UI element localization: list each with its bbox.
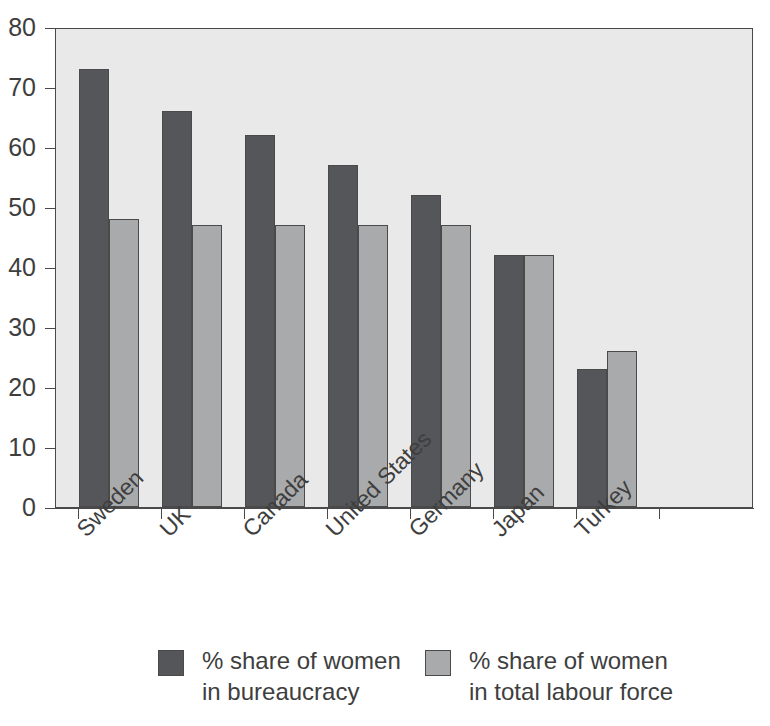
legend-swatch [425,650,451,676]
bar [162,111,192,507]
y-axis-tick-label: 30 [8,315,36,340]
plot-area [55,28,753,508]
y-axis-line [55,28,56,509]
legend-label: % share of womenin total labour force [469,645,673,707]
y-axis-tick [45,508,55,509]
bar-chart: 01020304050607080 SwedenUKCanadaUnited S… [0,0,770,726]
y-axis-tick [45,148,55,149]
y-axis-tick [45,328,55,329]
bar [79,69,109,507]
y-axis-tick [45,268,55,269]
y-axis-tick [45,208,55,209]
y-axis-tick-label: 0 [22,495,36,520]
bar [245,135,275,507]
y-axis-tick-label: 60 [8,135,36,160]
y-axis-tick [45,388,55,389]
legend-item: % share of womenin bureaucracy [158,645,401,707]
legend-label-line: in bureaucracy [202,676,401,707]
bar [275,225,305,507]
chart-legend: % share of womenin bureaucracy% share of… [0,645,770,726]
bar [109,219,139,507]
bar [494,255,524,507]
y-axis-tick [45,88,55,89]
legend-label-line: in total labour force [469,676,673,707]
bar [328,165,358,507]
legend-label-line: % share of women [202,645,401,676]
bar [524,255,554,507]
legend-label-line: % share of women [469,645,673,676]
y-axis-tick [45,28,55,29]
bars-layer [56,29,752,507]
y-axis-tick-label: 70 [8,75,36,100]
y-axis-tick [45,448,55,449]
legend-item: % share of womenin total labour force [425,645,673,707]
y-axis-tick-label: 40 [8,255,36,280]
y-axis-tick-label: 50 [8,195,36,220]
bar [192,225,222,507]
x-axis-line [55,508,754,509]
legend-label: % share of womenin bureaucracy [202,645,401,707]
y-axis-tick-label: 20 [8,375,36,400]
legend-swatch [158,650,184,676]
y-axis-tick-label: 10 [8,435,36,460]
bar [577,369,607,507]
y-axis-tick-label: 80 [8,15,36,40]
x-axis-tick [659,508,660,519]
